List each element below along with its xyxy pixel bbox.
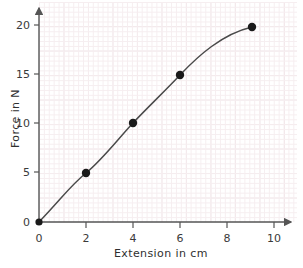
x-tick-label-2: 2 (83, 233, 90, 244)
data-point (129, 119, 137, 127)
force-extension-chart: 0 5 10 15 20 0 2 4 6 8 10 Extension in c… (0, 0, 303, 268)
data-point (35, 218, 42, 225)
data-point (176, 71, 184, 79)
x-tick-label-6: 6 (177, 233, 184, 244)
data-curve (39, 27, 252, 222)
y-tick-label-15: 15 (4, 69, 30, 80)
y-tick-label-5: 5 (4, 167, 30, 178)
x-tick-label-8: 8 (224, 233, 231, 244)
data-point (82, 169, 90, 177)
x-tick-label-0: 0 (36, 233, 43, 244)
x-axis-ticks (86, 222, 274, 228)
data-point (248, 23, 256, 31)
y-tick-label-20: 20 (4, 20, 30, 31)
x-tick-label-10: 10 (267, 233, 281, 244)
x-tick-label-4: 4 (130, 233, 137, 244)
x-axis-title: Extension in cm (114, 247, 208, 260)
plot-area (0, 0, 303, 268)
y-tick-label-0: 0 (4, 217, 30, 228)
y-axis-title: Force in N (9, 89, 22, 148)
y-axis-ticks (34, 25, 39, 172)
data-points (35, 23, 256, 226)
